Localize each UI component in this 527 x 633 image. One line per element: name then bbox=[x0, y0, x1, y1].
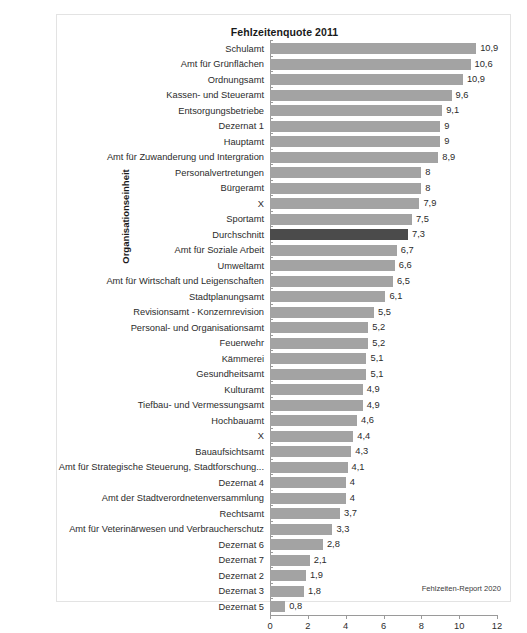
x-axis: 024681012 bbox=[270, 615, 512, 633]
bar-row: Amt für Strategische Steuerung, Stadtfor… bbox=[57, 460, 512, 476]
bar-category-label: Feuerwehr bbox=[57, 338, 270, 348]
bar bbox=[270, 570, 306, 581]
bar-value-label: 2,1 bbox=[310, 555, 327, 566]
bar-track: 4,6 bbox=[270, 413, 512, 429]
bar-track: 7,5 bbox=[270, 212, 512, 228]
bar-row: Dezernat 44 bbox=[57, 475, 512, 491]
bar-row: Amt für Wirtschaft und Leigenschaften6,5 bbox=[57, 274, 512, 290]
bar-track: 4,3 bbox=[270, 444, 512, 460]
x-axis-tick-label: 10 bbox=[454, 621, 464, 631]
bar-category-label: Dezernat 1 bbox=[57, 121, 270, 131]
bar-category-label: Tiefbau- und Vermessungsamt bbox=[57, 400, 270, 410]
bar-value-label: 5,1 bbox=[366, 369, 383, 380]
bar-category-label: Dezernat 3 bbox=[57, 586, 270, 596]
bar-track: 8,9 bbox=[270, 150, 512, 166]
bar-category-label: Sportamt bbox=[57, 214, 270, 224]
bar-row: Hauptamt9 bbox=[57, 134, 512, 150]
bar-value-label: 6,1 bbox=[385, 291, 402, 302]
bar-row: X4,4 bbox=[57, 429, 512, 445]
bar-row: Stadtplanungsamt6,1 bbox=[57, 289, 512, 305]
bar-category-label: Rechtsamt bbox=[57, 509, 270, 519]
bar-category-label: Entsorgungsbetriebe bbox=[57, 106, 270, 116]
plot-area: Schulamt10,9Amt für Grünflächen10,6Ordnu… bbox=[57, 15, 512, 603]
bar-track: 3,3 bbox=[270, 522, 512, 538]
bar-row: Kulturamt4,9 bbox=[57, 382, 512, 398]
bar-track: 9 bbox=[270, 119, 512, 135]
bar bbox=[270, 384, 363, 395]
bar bbox=[270, 167, 421, 178]
bar bbox=[270, 524, 332, 535]
bar bbox=[270, 245, 397, 256]
bar-category-label: Amt für Zuwanderung und Intergration bbox=[57, 152, 270, 162]
bar bbox=[270, 555, 310, 566]
bar-value-label: 6,7 bbox=[397, 245, 414, 256]
bar bbox=[270, 136, 440, 147]
bar-row: Umweltamt6,6 bbox=[57, 258, 512, 274]
bar bbox=[270, 539, 323, 550]
bar-value-label: 7,3 bbox=[408, 229, 425, 240]
bar bbox=[270, 431, 353, 442]
bar-category-label: Hochbauamt bbox=[57, 416, 270, 426]
bar bbox=[270, 322, 368, 333]
bar-row: Amt für Zuwanderung und Intergration8,9 bbox=[57, 150, 512, 166]
bar-category-label: Personalvertretungen bbox=[57, 168, 270, 178]
bar bbox=[270, 400, 363, 411]
bar-category-label: Kulturamt bbox=[57, 385, 270, 395]
bar-track: 6,6 bbox=[270, 258, 512, 274]
bar-track: 4,4 bbox=[270, 429, 512, 445]
bar bbox=[270, 214, 412, 225]
bar bbox=[270, 90, 452, 101]
bar bbox=[270, 183, 421, 194]
bar-category-label: X bbox=[57, 199, 270, 209]
bar bbox=[270, 74, 463, 85]
bar-category-label: Dezernat 6 bbox=[57, 540, 270, 550]
x-axis-tick bbox=[497, 615, 498, 619]
bar-highlighted bbox=[270, 229, 408, 240]
bar-row: Ordnungsamt10,9 bbox=[57, 72, 512, 88]
bar-category-label: Bürgeramt bbox=[57, 183, 270, 193]
bar-row: Bürgeramt8 bbox=[57, 181, 512, 197]
bar-row: Bauaufsichtsamt4,3 bbox=[57, 444, 512, 460]
bar bbox=[270, 338, 368, 349]
bar bbox=[270, 446, 351, 457]
bar-track: 10,6 bbox=[270, 57, 512, 73]
bar-track: 6,5 bbox=[270, 274, 512, 290]
bar-track: 5,2 bbox=[270, 320, 512, 336]
bar-category-label: Gesundheitsamt bbox=[57, 369, 270, 379]
bar-row: Kassen- und Steueramt9,6 bbox=[57, 88, 512, 104]
bar-row: Dezernat 19 bbox=[57, 119, 512, 135]
bar bbox=[270, 59, 471, 70]
bar-category-label: Amt für Strategische Steuerung, Stadtfor… bbox=[57, 462, 270, 472]
bar-row: Hochbauamt4,6 bbox=[57, 413, 512, 429]
bar-category-label: Dezernat 5 bbox=[57, 602, 270, 612]
x-axis-tick bbox=[384, 615, 385, 619]
bar-row: Dezernat 50,8 bbox=[57, 599, 512, 615]
bar bbox=[270, 493, 346, 504]
x-axis-tick-label: 0 bbox=[267, 621, 272, 631]
bar-category-label: Durchschnitt bbox=[57, 230, 270, 240]
bar-category-label: Amt für Wirtschaft und Leigenschaften bbox=[57, 276, 270, 286]
bar-track: 4,9 bbox=[270, 382, 512, 398]
bar-track: 5,1 bbox=[270, 367, 512, 383]
bar-track: 5,5 bbox=[270, 305, 512, 321]
bar-value-label: 8 bbox=[421, 183, 430, 194]
bar-row: Gesundheitsamt5,1 bbox=[57, 367, 512, 383]
bar bbox=[270, 260, 395, 271]
bar-category-label: Bauaufsichtsamt bbox=[57, 447, 270, 457]
bar-category-label: Dezernat 4 bbox=[57, 478, 270, 488]
bar-value-label: 1,8 bbox=[304, 586, 321, 597]
bar-track: 9 bbox=[270, 134, 512, 150]
x-axis-tick-label: 2 bbox=[305, 621, 310, 631]
bar-track: 9,6 bbox=[270, 88, 512, 104]
bar-track: 10,9 bbox=[270, 41, 512, 57]
bar bbox=[270, 353, 366, 364]
x-axis-tick bbox=[270, 615, 271, 619]
bar bbox=[270, 508, 340, 519]
bar-category-label: Dezernat 7 bbox=[57, 555, 270, 565]
bar-value-label: 4,9 bbox=[363, 384, 380, 395]
bar-track: 7,9 bbox=[270, 196, 512, 212]
chart-figure: Fehlzeitenquote 2011 Organisationseinhei… bbox=[56, 14, 511, 602]
bar-category-label: Dezernat 2 bbox=[57, 571, 270, 581]
bar-category-label: Amt für Veterinärwesen und Verbrauchersc… bbox=[57, 524, 270, 534]
bar-track: 4 bbox=[270, 475, 512, 491]
